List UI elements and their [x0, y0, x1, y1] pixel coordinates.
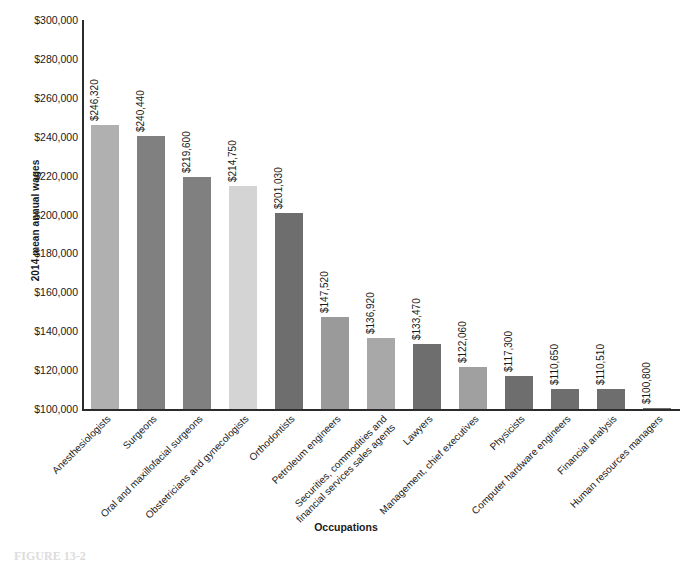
x-axis-tick-labels: AnesthesiologistsSurgeonsOral and maxill… — [82, 413, 680, 523]
bar-value-label: $246,320 — [89, 79, 100, 121]
bar[interactable] — [505, 376, 534, 410]
y-axis-tick-label: $260,000 — [16, 93, 78, 103]
bar-value-label: $110,510 — [595, 344, 606, 385]
y-axis-tick-label: $120,000 — [16, 365, 78, 375]
y-axis-tick-label: $100,000 — [16, 404, 78, 414]
bar-value-label: $136,920 — [365, 292, 376, 334]
bar[interactable] — [137, 136, 166, 409]
bar-group[interactable]: $117,300 — [505, 20, 534, 409]
bar-value-label: $219,600 — [181, 131, 192, 173]
bar-value-label: $133,470 — [411, 299, 422, 341]
bar-group[interactable]: $100,800 — [643, 20, 672, 409]
bar-series: $246,320$240,440$219,600$214,750$201,030… — [82, 20, 680, 411]
bar-value-label: $201,030 — [273, 167, 284, 209]
y-axis-tick-label: $160,000 — [16, 287, 78, 297]
bar-group[interactable]: $214,750 — [229, 20, 258, 409]
bar-value-label: $122,060 — [457, 321, 468, 363]
bar-group[interactable]: $201,030 — [275, 20, 304, 409]
y-axis-tick-label: $180,000 — [16, 248, 78, 258]
bar[interactable] — [459, 367, 488, 410]
y-axis-tick-label: $140,000 — [16, 326, 78, 336]
bar[interactable] — [367, 338, 396, 410]
bar-value-label: $110,650 — [549, 344, 560, 385]
bar-group[interactable]: $147,520 — [321, 20, 350, 409]
bar[interactable] — [643, 408, 672, 410]
y-axis-tick-label: $240,000 — [16, 132, 78, 142]
bar-value-label: $240,440 — [135, 91, 146, 133]
bar[interactable] — [275, 213, 304, 410]
bar[interactable] — [183, 177, 212, 410]
bar[interactable] — [229, 186, 258, 409]
bar-value-label: $117,300 — [503, 331, 514, 372]
bar-chart-figure: 2014 mean annual wages $300,000$280,000$… — [0, 0, 692, 561]
y-axis-tick-label: $280,000 — [16, 54, 78, 64]
y-axis-tick-label: $220,000 — [16, 171, 78, 181]
bar-group[interactable]: $240,440 — [137, 20, 166, 409]
bar-value-label: $100,800 — [641, 362, 652, 404]
bar-value-label: $214,750 — [227, 141, 238, 183]
y-axis-tick-label: $200,000 — [16, 210, 78, 220]
bar-group[interactable]: $122,060 — [459, 20, 488, 409]
bar-value-label: $147,520 — [319, 271, 330, 313]
figure-caption: FIGURE 13-2 — [14, 549, 86, 561]
x-axis-title: Occupations — [0, 521, 692, 533]
plot-area: $246,320$240,440$219,600$214,750$201,030… — [82, 20, 680, 411]
bar[interactable] — [597, 389, 626, 409]
bar-group[interactable]: $136,920 — [367, 20, 396, 409]
bar-group[interactable]: $133,470 — [413, 20, 442, 409]
bar[interactable] — [551, 389, 580, 410]
bar-group[interactable]: $246,320 — [91, 20, 120, 409]
bar[interactable] — [413, 344, 442, 409]
bar[interactable] — [91, 125, 120, 410]
bar-group[interactable]: $110,650 — [551, 20, 580, 409]
y-axis-tick-label: $300,000 — [16, 15, 78, 25]
bar-group[interactable]: $110,510 — [597, 20, 626, 409]
bar[interactable] — [321, 317, 350, 409]
bar-group[interactable]: $219,600 — [183, 20, 212, 409]
